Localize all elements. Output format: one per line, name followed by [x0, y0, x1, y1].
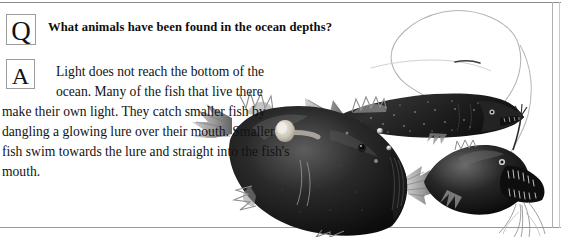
- qa-panel: Q What animals have been found in the oc…: [0, 0, 561, 237]
- bottom-divider: [0, 227, 561, 228]
- question-badge: Q: [6, 14, 36, 45]
- top-divider: [0, 2, 561, 3]
- answer-indent-spacer: [2, 62, 56, 102]
- question-text: What animals have been found in the ocea…: [48, 20, 378, 35]
- right-border: [552, 2, 553, 228]
- right-border-outer: [559, 2, 560, 228]
- answer-block: Light does not reach the bottom of the o…: [2, 62, 294, 182]
